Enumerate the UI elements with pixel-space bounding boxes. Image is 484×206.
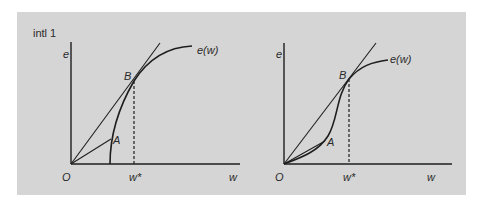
figure-title: intl 1 bbox=[33, 27, 56, 39]
left-chart bbox=[71, 42, 240, 164]
left-point-b-label: B bbox=[124, 70, 131, 82]
right-x-label: w bbox=[427, 171, 436, 183]
right-ray-to-a bbox=[284, 141, 325, 164]
right-wstar-label: w* bbox=[343, 171, 356, 183]
right-curve-label: e(w) bbox=[390, 53, 412, 65]
left-point-a-label: A bbox=[112, 134, 120, 146]
right-chart bbox=[284, 43, 452, 164]
right-point-a-label: A bbox=[326, 136, 334, 148]
left-origin-label: O bbox=[62, 171, 71, 183]
left-curve-label: e(w) bbox=[197, 44, 219, 56]
left-wstar-label: w* bbox=[129, 171, 142, 183]
right-ew-curve bbox=[284, 60, 388, 164]
left-ew-curve bbox=[110, 46, 192, 164]
effort-wage-diagram: intl 1 e w O A B w* e(w) e w O A B w* e(… bbox=[0, 0, 484, 206]
left-x-label: w bbox=[229, 171, 238, 183]
left-y-label: e bbox=[63, 48, 69, 60]
right-point-b-label: B bbox=[339, 69, 346, 81]
right-origin-label: O bbox=[275, 171, 284, 183]
right-y-label: e bbox=[276, 48, 282, 60]
left-ray-to-a bbox=[71, 139, 111, 164]
